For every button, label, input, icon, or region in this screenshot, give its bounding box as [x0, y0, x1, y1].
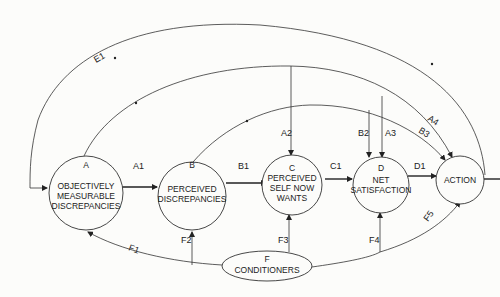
node-action: ACTION	[436, 156, 484, 204]
edge-c1: C1	[325, 161, 352, 179]
edge-label-f1: F1	[127, 242, 140, 255]
edge-a3: A3	[382, 96, 396, 157]
svg-text:DISCREPANCIES: DISCREPANCIES	[52, 201, 121, 211]
edge-a-arc: A4	[84, 66, 452, 157]
node-b: B PERCEIVED DISCREPANCIES	[158, 160, 227, 230]
edge-label-a1: A1	[133, 161, 144, 171]
edge-label-f3: F3	[278, 235, 289, 245]
svg-text:NET: NET	[373, 175, 390, 185]
edge-f2: F2	[181, 232, 192, 265]
edge-label-f2: F2	[181, 235, 192, 245]
svg-text:SELF NOW: SELF NOW	[270, 183, 314, 193]
svg-text:B: B	[189, 160, 195, 170]
svg-text:DISCREPANCIES: DISCREPANCIES	[158, 194, 227, 204]
svg-text:F: F	[264, 254, 269, 264]
svg-text:SATISFACTION: SATISFACTION	[351, 185, 412, 195]
edge-b-arc: B3	[193, 105, 445, 162]
edge-label-e1: E1	[92, 51, 107, 65]
edge-a1: A1	[122, 161, 157, 187]
svg-text:WANTS: WANTS	[277, 193, 308, 203]
edge-label-b3: B3	[417, 125, 432, 139]
edge-label-f4: F4	[369, 235, 380, 245]
edge-f1: F1	[88, 232, 222, 265]
edge-label-a4: A4	[426, 113, 441, 127]
edge-label-a2: A2	[281, 128, 292, 138]
svg-text:PERCEIVED: PERCEIVED	[167, 184, 216, 194]
node-a: A OBJECTIVELY MEASURABLE DISCREPANCIES	[49, 156, 123, 230]
node-d: D NET SATISFACTION	[351, 157, 412, 213]
edge-b2: B2	[358, 110, 369, 157]
flow-diagram: E1 A4 A2 A3 B3 B2 A1 B1 C1 D1	[0, 0, 500, 297]
edge-label-f5: F5	[421, 209, 435, 223]
svg-text:C: C	[289, 163, 295, 173]
edge-f4: F4	[312, 213, 380, 267]
svg-text:ACTION: ACTION	[444, 175, 476, 185]
edge-f3: F3	[278, 215, 289, 252]
svg-text:PERCEIVED: PERCEIVED	[267, 173, 316, 183]
svg-text:MEASURABLE: MEASURABLE	[57, 191, 115, 201]
svg-text:CONDITIONERS: CONDITIONERS	[234, 265, 300, 275]
edge-d1: D1	[408, 161, 436, 176]
edge-label-d1: D1	[414, 161, 426, 171]
edge-label-c1: C1	[330, 161, 342, 171]
node-c: C PERCEIVED SELF NOW WANTS	[262, 155, 322, 215]
svg-text:A: A	[83, 160, 89, 170]
svg-text:D: D	[378, 163, 384, 173]
svg-text:OBJECTIVELY: OBJECTIVELY	[58, 181, 115, 191]
node-f: F CONDITIONERS	[222, 251, 312, 281]
edge-label-b2: B2	[358, 128, 369, 138]
edge-a2: A2	[281, 66, 292, 155]
edge-label-a3: A3	[385, 128, 396, 138]
edge-b1: B1	[226, 161, 266, 183]
edge-label-b1: B1	[238, 161, 249, 171]
